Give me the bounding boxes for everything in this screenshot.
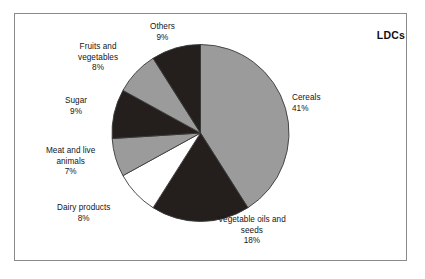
slice-label-name-2: seeds bbox=[218, 226, 286, 237]
slice-label-meat-and-live-animals: Meat and live animals 7% bbox=[46, 146, 95, 178]
slice-label-name: Meat and live bbox=[46, 146, 95, 157]
slice-label-vegetable-oils-and-seeds: Vegetable oils and seeds 18% bbox=[218, 215, 286, 247]
slice-label-name: Dairy products bbox=[57, 203, 110, 214]
slice-label-cereals: Cereals 41% bbox=[292, 93, 321, 114]
slice-label-fruits-and-vegetables: Fruits and vegetables 8% bbox=[78, 42, 118, 74]
slice-label-name: Fruits and bbox=[78, 42, 118, 53]
slice-label-name-2: animals bbox=[46, 157, 95, 168]
slice-label-value: 7% bbox=[46, 167, 95, 178]
slice-label-name: Others bbox=[150, 22, 175, 33]
slice-label-others: Others 9% bbox=[150, 22, 175, 43]
slice-label-value: 8% bbox=[57, 214, 110, 225]
slice-label-name: Vegetable oils and bbox=[218, 215, 286, 226]
slice-label-name: Sugar bbox=[65, 96, 87, 107]
slice-label-value: 18% bbox=[218, 236, 286, 247]
figure: LDCs Cereals 41% Vegetable oils and seed… bbox=[0, 0, 425, 279]
slice-label-value: 9% bbox=[150, 33, 175, 44]
slice-label-value: 41% bbox=[292, 104, 321, 115]
slice-label-value: 9% bbox=[65, 107, 87, 118]
pie-slice-group bbox=[112, 45, 289, 222]
slice-label-name-2: vegetables bbox=[78, 53, 118, 64]
slice-label-value: 8% bbox=[78, 63, 118, 74]
slice-label-name: Cereals bbox=[292, 93, 321, 104]
pie-chart bbox=[0, 0, 425, 279]
slice-label-sugar: Sugar 9% bbox=[65, 96, 87, 117]
slice-label-dairy-products: Dairy products 8% bbox=[57, 203, 110, 224]
chart-region-tag: LDCs bbox=[377, 29, 405, 41]
